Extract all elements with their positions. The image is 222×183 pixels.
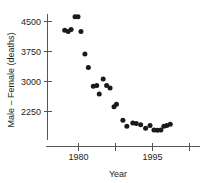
data-point xyxy=(82,51,87,56)
data-point xyxy=(148,123,153,128)
y-axis-title: Male – Female (deaths) xyxy=(6,32,16,127)
y-tick-label-4500: 4500 xyxy=(21,17,41,27)
data-point xyxy=(94,83,99,88)
scatterplot-figure: 4500 3750 3000 2250 1980 1995 Year Male … xyxy=(0,0,222,183)
data-point xyxy=(76,14,81,19)
data-point xyxy=(134,121,139,126)
data-point xyxy=(143,126,148,131)
data-point xyxy=(168,122,173,127)
data-point xyxy=(86,65,91,70)
y-tick-label-3750: 3750 xyxy=(21,47,41,57)
x-tick-label-1980: 1980 xyxy=(68,152,88,162)
data-point xyxy=(101,77,106,82)
chart-canvas: 4500 3750 3000 2250 1980 1995 Year Male … xyxy=(0,0,222,183)
data-point xyxy=(114,102,119,107)
x-tick-label-1995: 1995 xyxy=(142,152,162,162)
x-axis-title: Year xyxy=(109,169,127,179)
data-point xyxy=(124,124,129,129)
data-point xyxy=(69,27,74,32)
data-points-layer xyxy=(62,14,173,133)
y-tick-label-3000: 3000 xyxy=(21,77,41,87)
y-tick-label-2250: 2250 xyxy=(21,107,41,117)
data-point xyxy=(108,85,113,90)
data-point xyxy=(120,118,125,123)
data-point xyxy=(78,29,83,34)
data-point xyxy=(97,91,102,96)
data-point xyxy=(138,122,143,127)
